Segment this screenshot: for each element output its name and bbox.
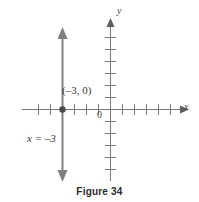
line-arrowhead-down [58,170,68,182]
point-coordinate-label: (–3, 0) [62,85,91,96]
origin-label: 0 [97,110,102,120]
y-axis-label: y [117,6,121,16]
plotted-point-marker [59,106,65,112]
line-equation-label: x = –3 [27,133,56,144]
y-axis-arrowhead [107,18,115,27]
coordinate-plane-graphic [0,0,199,202]
line-arrowhead-up [58,27,68,39]
figure-container: y x 0 (–3, 0) x = –3 Figure 34 [0,0,199,202]
x-axis-label: x [184,102,188,112]
figure-caption: Figure 34 [0,186,199,197]
